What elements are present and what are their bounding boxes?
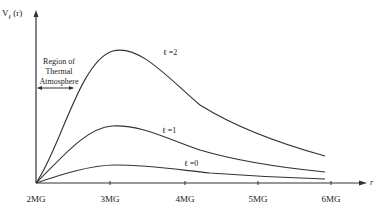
x-tick-3mg: 3MG (100, 194, 119, 204)
x-tick-4mg: 4MG (175, 194, 194, 204)
curve-label-l1: ℓ =1 (162, 126, 176, 135)
x-tick-5mg: 5MG (248, 194, 267, 204)
curve-label-l2: ℓ =2 (163, 48, 177, 57)
region-thermal-atmosphere-label: Region of Thermal Atmosphere (38, 57, 80, 87)
curve-label-l0: ℓ =0 (184, 159, 198, 168)
curve-l0 (36, 165, 325, 183)
x-axis-label: r (370, 178, 373, 187)
y-axis-arrow-icon (34, 10, 39, 17)
curve-l1 (36, 126, 325, 183)
x-axis-arrow-icon (359, 181, 367, 186)
y-axis-label: Vℓ (r) (2, 8, 22, 20)
x-tick-6mg: 6MG (321, 194, 340, 204)
x-tick-2mg: 2MG (26, 194, 45, 204)
effective-potential-plot (0, 0, 387, 213)
